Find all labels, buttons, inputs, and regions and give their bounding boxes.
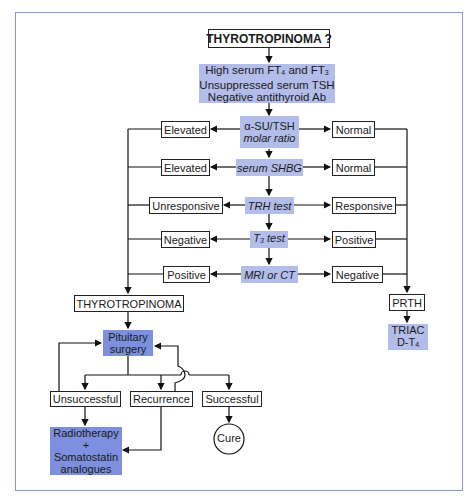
trh-unresponsive-box: Unresponsive [149, 197, 223, 214]
trh-test-box: TRH test [245, 197, 294, 214]
serum-shbg-box: serum SHBG [236, 159, 303, 176]
asu-tsh-ratio-box: α-SU/TSH molar ratio [240, 116, 299, 148]
finding-ft4-ft3: High serum FT4 and FT3 [205, 64, 329, 79]
pituitary-surgery-box: Pituitary surgery [103, 330, 153, 356]
mri-positive-box: Positive [163, 266, 210, 283]
mri-ct-box: MRI or CT [241, 266, 298, 283]
asu-normal-box: Normal [332, 121, 375, 138]
thyrotropinoma-question-box: THYROTROPINOMA ? [208, 29, 330, 48]
shbg-elevated-box: Elevated [161, 159, 210, 176]
successful-box: Successful [202, 391, 262, 407]
cure-label: Cure [214, 432, 244, 446]
shbg-normal-box: Normal [332, 159, 375, 176]
trh-responsive-box: Responsive [332, 197, 396, 214]
radiotherapy-box: Radiotherapy + Somatostatin analogues [50, 427, 122, 475]
unsuccessful-box: Unsuccessful [50, 391, 121, 407]
initial-findings-box: High serum FT4 and FT3 Unsuppressed seru… [199, 64, 335, 103]
t3-positive-box: Positive [332, 231, 376, 248]
mri-negative-box: Negative [332, 266, 383, 283]
thyrotropinoma-box: THYROTROPINOMA [74, 295, 184, 312]
asu-elevated-box: Elevated [161, 121, 210, 138]
t3-test-box: T3 test [250, 231, 288, 248]
finding-tsh: Unsuppressed serum TSH [199, 79, 334, 91]
recurrence-box: Recurrence [130, 391, 193, 407]
triac-box: TRIAC D-T4 [388, 324, 428, 350]
prth-box: PRTH [389, 294, 425, 311]
finding-antibody: Negative antithyroid Ab [208, 91, 326, 103]
t3-negative-box: Negative [161, 231, 210, 248]
